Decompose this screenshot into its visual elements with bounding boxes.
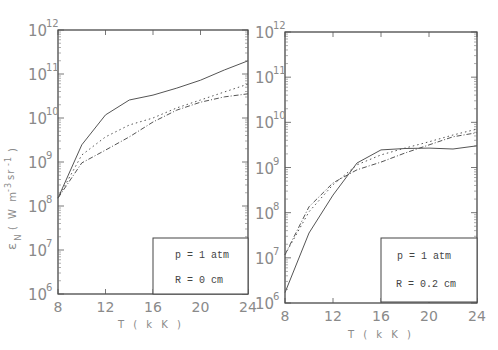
svg-text:8: 8 — [46, 194, 52, 205]
svg-text:sr: sr — [5, 169, 16, 180]
svg-text:12: 12 — [46, 18, 59, 29]
series-dash-dot — [285, 133, 477, 255]
x-tick-label: 24 — [468, 308, 486, 324]
svg-text:8: 8 — [273, 201, 279, 212]
svg-text:6: 6 — [273, 291, 279, 302]
svg-text:9: 9 — [46, 150, 52, 161]
legend-pressure: p = 1 atm — [397, 251, 451, 262]
svg-text:9: 9 — [273, 156, 279, 167]
series-dash-dot — [58, 94, 248, 198]
x-axis-title-left: T ( k K ) — [117, 319, 184, 330]
legend-pressure: p = 1 atm — [175, 250, 229, 261]
y-tick-label: 10 — [255, 114, 274, 132]
series-dotted — [58, 84, 248, 198]
x-tick-label: 20 — [420, 308, 438, 324]
y-tick-label: 10 — [255, 205, 274, 223]
svg-text:10: 10 — [273, 110, 286, 121]
svg-text:-3: -3 — [4, 182, 13, 192]
svg-text:7: 7 — [273, 246, 279, 257]
svg-text:): ) — [7, 145, 18, 152]
svg-text:11: 11 — [46, 62, 59, 73]
x-tick-label: 12 — [97, 299, 115, 315]
svg-text:6: 6 — [46, 282, 52, 293]
x-tick-label: 20 — [192, 299, 210, 315]
y-tick-label: 10 — [255, 295, 274, 313]
legend-radius: R = 0.2 cm — [396, 279, 456, 290]
x-tick-label: 16 — [372, 308, 390, 324]
y-tick-label: 10 — [28, 110, 47, 128]
y-tick-label: 10 — [28, 154, 47, 172]
y-tick-label: 10 — [28, 22, 47, 40]
y-tick-label: 10 — [28, 66, 47, 84]
legend-box-left: p = 1 atm R = 0 cm — [153, 238, 248, 294]
series-dotted — [285, 129, 477, 255]
svg-text:12: 12 — [273, 20, 286, 31]
svg-text:N: N — [13, 234, 23, 241]
y-tick-label: 10 — [255, 250, 274, 268]
y-tick-label: 10 — [28, 286, 47, 304]
x-tick-label: 8 — [54, 299, 63, 315]
y-tick-label: 10 — [255, 24, 274, 42]
legend-box-right: p = 1 atm R = 0.2 cm — [381, 238, 477, 302]
x-axis-title-right: T ( k K ) — [347, 329, 414, 340]
svg-text:-1: -1 — [4, 156, 13, 166]
y-tick-label: 10 — [255, 160, 274, 178]
svg-text:11: 11 — [273, 65, 286, 76]
svg-text:10: 10 — [46, 106, 59, 117]
y-tick-label: 10 — [28, 242, 47, 260]
x-tick-label: 12 — [324, 308, 342, 324]
y-axis-title: ε N ( W m -3 sr -1 ) — [4, 145, 23, 250]
legend-radius: R = 0 cm — [175, 275, 223, 286]
y-tick-label: 10 — [28, 198, 47, 216]
x-tick-label: 16 — [144, 299, 162, 315]
y-tick-label: 10 — [255, 69, 274, 87]
series-solid — [58, 61, 248, 198]
svg-text:ε: ε — [4, 243, 19, 250]
x-tick-label: 8 — [281, 308, 290, 324]
chart-figure: 106107108109101010111012812162024 106107… — [0, 0, 498, 350]
svg-text:( W m: ( W m — [7, 190, 18, 230]
svg-text:7: 7 — [46, 238, 52, 249]
